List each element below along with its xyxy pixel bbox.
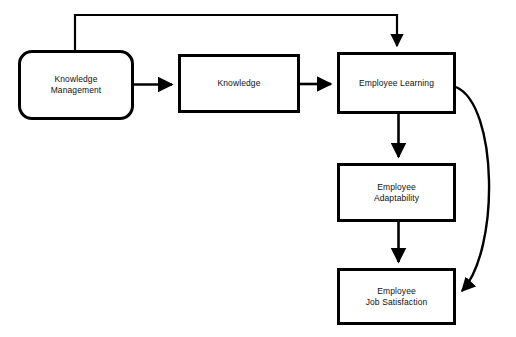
- node-employee-job-satisfaction-label: Employee Job Satisfaction: [362, 286, 432, 308]
- cropped-header-text: [0, 0, 516, 7]
- diagram-canvas: Knowledge Management Knowledge Employee …: [0, 0, 516, 337]
- node-knowledge-management-label: Knowledge Management: [47, 74, 106, 96]
- node-employee-learning-label: Employee Learning: [355, 78, 438, 89]
- node-knowledge-management[interactable]: Knowledge Management: [18, 50, 134, 120]
- node-knowledge-label: Knowledge: [214, 78, 265, 89]
- edge-km-to-learning-top: [75, 15, 397, 50]
- node-employee-job-satisfaction[interactable]: Employee Job Satisfaction: [337, 268, 456, 325]
- edge-learning-to-satisfaction-curve: [456, 87, 489, 291]
- node-employee-learning[interactable]: Employee Learning: [337, 52, 456, 114]
- node-knowledge[interactable]: Knowledge: [178, 54, 300, 113]
- node-employee-adaptability[interactable]: Employee Adaptability: [337, 163, 456, 222]
- node-employee-adaptability-label: Employee Adaptability: [370, 182, 423, 204]
